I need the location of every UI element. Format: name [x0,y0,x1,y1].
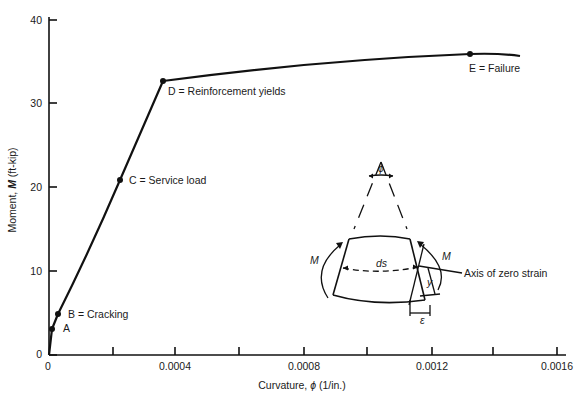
y-tick-labels: 0 10 20 30 40 [30,14,42,360]
svg-text:0.0012: 0.0012 [416,360,448,372]
beam-element-diagram [321,162,462,316]
svg-text:0: 0 [36,348,42,360]
svg-text:20: 20 [30,181,42,193]
y-axis-label: Moment, M (ft-kip) [6,147,18,232]
inset-ds-label: ds [376,257,388,269]
label-C: C = Service load [129,174,206,186]
label-D: D = Reinforcement yields [168,85,286,97]
label-B: B = Cracking [68,308,129,320]
inset-phi-label: ϕ [378,162,384,174]
svg-text:10: 10 [30,265,42,277]
x-tick-labels: 0 0.0004 0.0008 0.0012 0.0016 [45,360,573,372]
svg-text:30: 30 [30,97,42,109]
label-A: A [63,322,70,334]
svg-text:0: 0 [45,360,51,372]
moment-curvature-chart: 0 10 20 30 40 0 0.0004 0.0008 0.0012 0.0… [0,0,584,397]
label-E: E = Failure [469,62,520,74]
inset-M-left-label: M [310,254,319,266]
svg-text:40: 40 [30,14,42,26]
inset-y-label: y [426,276,433,288]
svg-text:0.0004: 0.0004 [159,360,191,372]
inset-epsilon-label: ε [420,314,425,326]
svg-text:0.0016: 0.0016 [541,360,573,372]
x-axis-label: Curvature, ϕ (1/in.) [258,379,346,391]
svg-text:0.0008: 0.0008 [288,360,320,372]
inset-axis-label: Axis of zero strain [464,267,548,279]
inset-M-right-label: M [442,250,451,262]
